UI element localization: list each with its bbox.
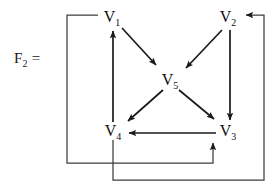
node-v5: V5: [162, 72, 179, 88]
node-v4-subscript: 4: [116, 131, 121, 142]
node-v5-base: V: [162, 71, 174, 88]
node-v2: V2: [220, 9, 237, 25]
figure-canvas: F2 =: [0, 0, 277, 190]
node-v4: V4: [105, 123, 122, 139]
node-v2-base: V: [220, 8, 232, 25]
directed-graph: [0, 0, 277, 190]
edge-v1-v5: [122, 28, 156, 65]
node-v1: V1: [104, 9, 121, 25]
node-v3-subscript: 3: [231, 131, 236, 142]
node-v3: V3: [220, 123, 237, 139]
edge-v2-v5: [186, 30, 222, 68]
node-v1-subscript: 1: [115, 17, 120, 28]
node-v2-subscript: 2: [231, 17, 236, 28]
node-v5-subscript: 5: [173, 80, 178, 91]
edge-v5-v3: [179, 90, 214, 119]
node-v3-base: V: [220, 122, 232, 139]
node-v1-base: V: [104, 8, 116, 25]
edge-v5-v4: [128, 90, 163, 121]
edge-v1-v3: [67, 15, 213, 163]
node-v4-base: V: [105, 122, 117, 139]
